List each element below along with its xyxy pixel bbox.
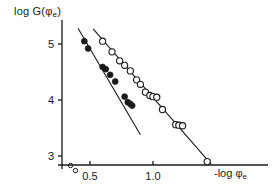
filled-circles-point <box>81 38 87 44</box>
filled-circles-point <box>107 72 113 78</box>
x-axis-label-phi: φ <box>235 167 242 179</box>
filled-circles-point <box>103 66 109 72</box>
open-circles-point <box>180 123 186 129</box>
y-tick-label: 3 <box>40 150 54 162</box>
y-axis-label-phi: φ <box>45 5 52 17</box>
figure-scatter-plot: log G(φe) -log φe 345 0.51.0 <box>0 0 273 188</box>
open-circles-point <box>100 38 106 44</box>
open-circles-point <box>117 58 123 64</box>
x-axis-label-subscript: e <box>243 172 247 181</box>
open-circles-point <box>154 94 160 100</box>
y-axis-label: log G(φe) <box>14 6 61 19</box>
x-axis-label-main: -log <box>214 167 232 179</box>
y-tick-label: 5 <box>40 38 54 50</box>
open-circles-point <box>127 68 133 74</box>
open-circles-point <box>159 106 165 112</box>
open-circles-point <box>122 62 128 68</box>
x-axis-label: -log φe <box>214 168 247 181</box>
y-tick-label: 4 <box>40 94 54 106</box>
open-circles-point <box>204 159 210 165</box>
filled-circles-point <box>85 46 91 52</box>
filled-circles-point <box>112 79 118 85</box>
filled-circles-point <box>122 94 128 100</box>
x-tick-label: 1.0 <box>140 170 166 182</box>
filled-fit-line <box>78 28 140 134</box>
filled-circles-point <box>129 103 135 109</box>
open-circles-point <box>137 81 143 87</box>
x-tick-label: 0.5 <box>77 170 103 182</box>
y-axis-label-main: log G( <box>14 5 45 17</box>
open-circles-point <box>109 49 115 55</box>
y-axis-label-close: ) <box>57 5 61 17</box>
